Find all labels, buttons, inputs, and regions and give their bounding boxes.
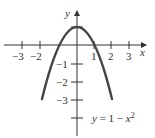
equation-label: y = 1 − x2 — [91, 111, 135, 124]
x-tick-label: 1 — [91, 50, 97, 62]
y-tick-label: −3 — [56, 94, 68, 106]
y-axis-label: y — [64, 7, 70, 19]
x-axis-label: x — [139, 46, 145, 58]
y-tick-label: −1 — [56, 58, 68, 70]
x-tick-label: −3 — [12, 50, 24, 62]
y-tick-label: −2 — [56, 76, 68, 88]
x-tick-label: 3 — [126, 50, 132, 62]
x-tick-label: 2 — [108, 50, 114, 62]
chart-canvas: −3 −2 1 2 3 −1 −2 −3 x y y = 1 − x2 — [0, 0, 155, 138]
x-tick-label: −2 — [30, 50, 42, 62]
